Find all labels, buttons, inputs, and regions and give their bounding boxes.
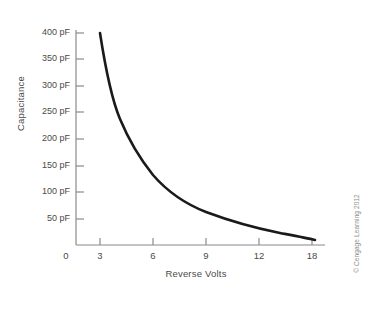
y-axis-title: Capacitance bbox=[15, 64, 26, 144]
x-tick-label-group: 0 3 6 9 12 18 bbox=[0, 0, 365, 312]
x-tick-label-9: 9 bbox=[191, 250, 221, 261]
capacitance-vs-reverse-volts-chart: 400 pF 350 pF 300 pF 250 pF 200 pF 150 p… bbox=[0, 0, 365, 312]
x-axis-title: Reverse Volts bbox=[76, 268, 316, 279]
x-tick-label-6: 6 bbox=[138, 250, 168, 261]
x-tick-label-18: 18 bbox=[297, 250, 327, 261]
x-tick-label-3: 3 bbox=[85, 250, 115, 261]
copyright-note: © Cengage Learning 2012 bbox=[353, 179, 360, 289]
x-tick-label-12: 12 bbox=[244, 250, 274, 261]
x-tick-label-0: 0 bbox=[51, 250, 81, 261]
